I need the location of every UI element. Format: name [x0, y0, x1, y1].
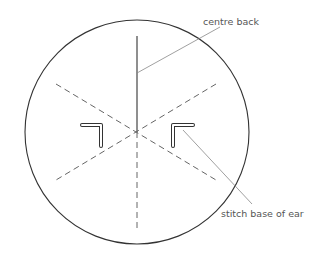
centre-back-leader	[137, 27, 220, 73]
left-ear-marker	[82, 125, 101, 146]
centre-back-label: centre back	[203, 16, 259, 27]
ear-leader	[183, 130, 252, 204]
stitch-base-of-ear-label: stitch base of ear	[221, 208, 304, 219]
right-ear-marker	[173, 125, 193, 146]
ear-placement-diagram: centre back stitch base of ear	[0, 0, 315, 262]
